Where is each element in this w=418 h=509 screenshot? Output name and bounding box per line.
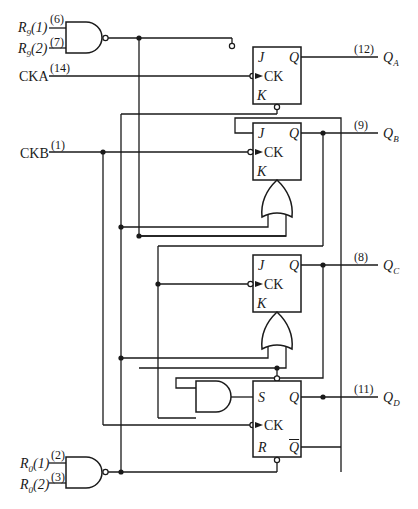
ffd-ck-label: CK	[264, 419, 283, 433]
circuit-diagram: R9(1) (6) R9(2) (7) CKA (14) CKB (1) R0(…	[0, 0, 418, 509]
ckb-label: CKB	[20, 147, 49, 161]
qc-label: QC	[383, 259, 399, 276]
qa-label: QA	[383, 51, 399, 68]
r9-1-label: R9(1)	[18, 21, 47, 38]
r9-2-pin: (7)	[50, 36, 64, 48]
ffc-q-label: Q	[289, 259, 299, 273]
r9-nand-gate	[66, 22, 108, 53]
ffc-ck-label: CK	[264, 278, 283, 292]
and-gate-d	[196, 381, 231, 412]
ffa-j-label: J	[258, 51, 264, 65]
ffc-j-label: J	[258, 259, 264, 273]
r0-1-label: R0(1)	[20, 457, 49, 474]
ffa-k-label: K	[257, 89, 266, 103]
qa-pin: (12)	[354, 43, 374, 55]
r9-2-label: R9(2)	[18, 42, 47, 59]
ffd-r-label: R	[258, 441, 267, 455]
qb-label: QB	[383, 127, 399, 144]
cka-label: CKA	[19, 70, 49, 84]
qb-pin: (9)	[354, 119, 368, 131]
qd-pin: (11)	[354, 383, 374, 395]
r0-1-pin: (2)	[51, 449, 65, 461]
ffd-q-label: Q	[289, 391, 299, 405]
r0-nand-gate	[66, 457, 108, 488]
ffb-ck-label: CK	[264, 146, 283, 160]
ffd-qbar-label: Q	[289, 441, 299, 455]
cka-pin: (14)	[50, 62, 70, 74]
ffb-q-label: Q	[289, 127, 299, 141]
r0-2-pin: (3)	[51, 471, 65, 483]
qd-label: QD	[383, 391, 400, 408]
r9-1-pin: (6)	[50, 13, 64, 25]
ffd-s-label: S	[258, 391, 265, 405]
ffa-ck-label: CK	[264, 70, 283, 84]
ffb-j-label: J	[258, 127, 264, 141]
ffa-q-label: Q	[289, 51, 299, 65]
ffc-k-label: K	[257, 297, 266, 311]
r0-2-label: R0(2)	[20, 478, 49, 495]
ckb-pin: (1)	[51, 139, 65, 151]
ffb-k-label: K	[257, 165, 266, 179]
or-gate-c	[262, 312, 292, 349]
or-gate-b	[262, 180, 292, 217]
qc-pin: (8)	[354, 251, 368, 263]
